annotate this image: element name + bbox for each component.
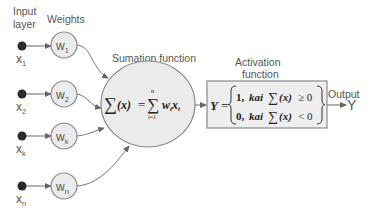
svg-text:0,: 0, (236, 110, 245, 122)
input-layer-label: Input (13, 5, 36, 17)
input-row-2: w2 x2 (16, 81, 101, 116)
input-row-1: w1 x1 (16, 32, 108, 78)
svg-text:i=1: i=1 (148, 114, 156, 120)
svg-text:kai: kai (249, 110, 264, 122)
summation-node: ∑ (x) = ∑ n i=1 wixi (101, 61, 195, 147)
svg-text:xn: xn (16, 192, 26, 208)
svg-text:∑: ∑ (268, 109, 278, 124)
svg-text:(x): (x) (117, 98, 131, 112)
input-row-n: wn xn (16, 146, 129, 208)
svg-text:x2: x2 (16, 100, 26, 116)
svg-text:≥ 0: ≥ 0 (298, 91, 313, 103)
activation-function-label-line2: function (242, 68, 279, 80)
svg-text:1,: 1, (236, 91, 245, 103)
input-node-icon (18, 182, 27, 191)
input-node-icon (18, 132, 27, 141)
input-layer-label-line2: layer (13, 18, 36, 30)
svg-text:∑: ∑ (268, 90, 278, 105)
svg-text:x1: x1 (16, 52, 26, 68)
svg-text:n: n (151, 88, 154, 94)
svg-text:(x): (x) (279, 91, 292, 104)
input-node-icon (18, 90, 27, 99)
svg-text:< 0: < 0 (298, 110, 313, 122)
svg-text:=: = (138, 97, 145, 112)
svg-text:∑: ∑ (104, 94, 117, 114)
input-row-k: wk xk (16, 123, 104, 158)
weights-label: Weights (47, 13, 85, 25)
svg-text:(x): (x) (279, 110, 292, 123)
perceptron-diagram: Input layer Weights Sumation function Ac… (0, 0, 374, 215)
activation-function-label: Activation (235, 56, 281, 68)
activation-node: Y = 1, kai ∑ (x) ≥ 0 0, kai ∑ (x) < 0 (207, 81, 327, 128)
svg-text:xk: xk (16, 142, 26, 158)
input-node-icon (18, 42, 27, 51)
svg-text:Y: Y (210, 98, 219, 113)
svg-text:wixi: wixi (162, 98, 180, 113)
svg-text:∑: ∑ (147, 95, 159, 114)
output-symbol: Y (347, 97, 357, 113)
svg-text:=: = (221, 98, 228, 113)
svg-text:kai: kai (249, 91, 264, 103)
